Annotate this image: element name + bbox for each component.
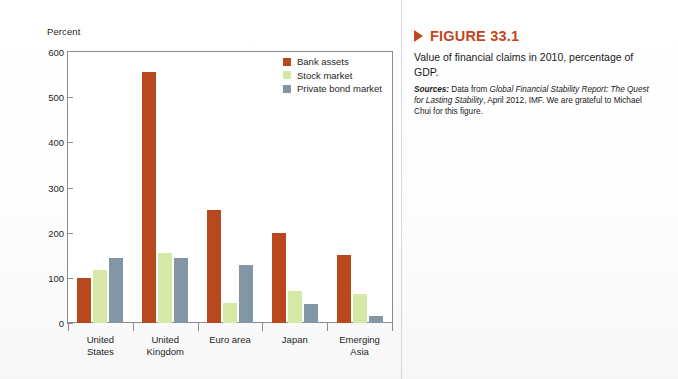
legend-label: Private bond market <box>297 82 382 96</box>
x-category-line: Asia <box>327 346 392 358</box>
y-tick-label: 300 <box>38 182 64 193</box>
y-tick-label: 600 <box>38 47 64 58</box>
bar-bank-assets <box>337 255 351 323</box>
x-category-label: UnitedKingdom <box>133 334 198 357</box>
legend-swatch-icon <box>283 58 291 66</box>
x-category-line: Kingdom <box>133 346 198 358</box>
bar-stock-market <box>158 253 172 323</box>
y-tick-label: 100 <box>38 272 64 283</box>
x-tick-mark <box>68 323 69 331</box>
bar-bank-assets <box>77 278 91 323</box>
bar-stock-market <box>353 294 367 323</box>
y-axis-tick-labels: 6005004003002001000 <box>36 0 64 379</box>
bar-bank-assets <box>142 72 156 323</box>
chart-legend: Bank assetsStock marketPrivate bond mark… <box>283 55 382 96</box>
x-tick-mark <box>262 323 263 331</box>
legend-item: Private bond market <box>283 82 382 96</box>
figure-sources-note: Sources: Data from Global Financial Stab… <box>414 84 658 118</box>
chart-panel: Percent 6005004003002001000 UnitedStates… <box>0 0 400 379</box>
figure-heading: FIGURE 33.1 <box>414 28 519 44</box>
bar-private-bond-market <box>304 304 318 323</box>
x-category-line: United <box>133 334 198 346</box>
panel-divider <box>401 0 402 379</box>
bar-private-bond-market <box>174 258 188 323</box>
legend-label: Bank assets <box>297 55 349 69</box>
triangle-marker-icon <box>414 30 423 42</box>
y-tick-label: 0 <box>38 318 64 329</box>
bar-group <box>133 52 198 323</box>
sources-label: Sources: <box>414 85 449 94</box>
x-category-label: EmergingAsia <box>327 334 392 357</box>
figure-page: Percent 6005004003002001000 UnitedStates… <box>0 0 678 379</box>
legend-item: Stock market <box>283 69 382 83</box>
y-tick-label: 400 <box>38 137 64 148</box>
y-tick-label: 500 <box>38 92 64 103</box>
bar-group <box>68 52 133 323</box>
x-tick-mark <box>327 323 328 331</box>
x-category-label: Euro area <box>198 334 263 346</box>
figure-caption-text: Value of financial claims in 2010, perce… <box>414 50 652 79</box>
x-category-line: Emerging <box>327 334 392 346</box>
x-category-line: Japan <box>262 334 327 346</box>
x-category-line: States <box>68 346 133 358</box>
bar-stock-market <box>288 291 302 323</box>
bar-bank-assets <box>272 233 286 323</box>
legend-label: Stock market <box>297 69 352 83</box>
x-category-label: UnitedStates <box>68 334 133 357</box>
bar-private-bond-market <box>369 316 383 323</box>
bar-stock-market <box>93 270 107 323</box>
x-category-line: Euro area <box>198 334 263 346</box>
bar-private-bond-market <box>109 258 123 323</box>
legend-swatch-icon <box>283 71 291 79</box>
x-tick-mark <box>392 323 393 331</box>
bar-bank-assets <box>207 210 221 323</box>
x-category-label: Japan <box>262 334 327 346</box>
legend-swatch-icon <box>283 85 291 93</box>
bar-private-bond-market <box>239 265 253 323</box>
x-tick-mark <box>133 323 134 331</box>
bar-stock-market <box>223 303 237 323</box>
caption-panel: FIGURE 33.1 Value of financial claims in… <box>414 0 666 379</box>
legend-item: Bank assets <box>283 55 382 69</box>
sources-text-part1: Data from <box>449 85 490 94</box>
x-category-line: United <box>68 334 133 346</box>
x-tick-mark <box>198 323 199 331</box>
bar-group <box>198 52 263 323</box>
y-tick-label: 200 <box>38 227 64 238</box>
figure-number-label: FIGURE 33.1 <box>430 28 519 44</box>
